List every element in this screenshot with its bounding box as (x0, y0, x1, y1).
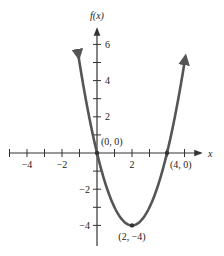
parabola-path (79, 57, 186, 225)
labels: −4−22642−2−4xf(x)(0, 0)(4, 0)(2, −4) (22, 10, 213, 243)
y-axis-label: f(x) (90, 10, 105, 22)
y-tick-label: −4 (79, 220, 90, 231)
y-tick-label: 6 (105, 39, 110, 50)
point-label: (0, 0) (101, 136, 123, 148)
function-curve (79, 57, 186, 225)
key-point (165, 151, 169, 155)
point-label: (2, −4) (118, 231, 145, 243)
x-axis-label: x (207, 148, 213, 159)
x-tick-label: −2 (57, 159, 68, 170)
x-tick-label: −4 (22, 159, 33, 170)
point-label: (4, 0) (170, 159, 192, 171)
y-tick-label: −2 (79, 184, 90, 195)
key-point (95, 151, 99, 155)
y-tick-label: 2 (105, 111, 110, 122)
key-point (130, 223, 134, 227)
x-tick-label: 2 (130, 159, 135, 170)
parabola-chart: −4−22642−2−4xf(x)(0, 0)(4, 0)(2, −4) (0, 0, 224, 256)
y-tick-label: 4 (105, 75, 110, 86)
